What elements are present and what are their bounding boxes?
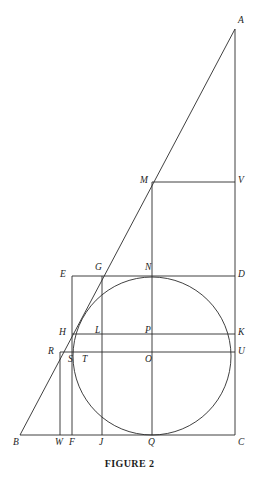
figure-caption: FIGURE 2 [0,458,259,469]
point-label-D: D [238,270,245,280]
point-label-M: M [140,176,148,186]
point-label-A: A [238,16,244,26]
point-label-U: U [238,347,245,357]
segment-BA-hypotenuse [20,29,235,435]
point-label-W: W [55,438,63,448]
point-label-Q: Q [148,438,155,448]
point-label-S: S [68,355,73,365]
figure-container: ABCDEFGHJKLMNOPQRSTUVW FIGURE 2 [0,0,259,493]
point-label-J: J [99,438,103,448]
point-label-K: K [238,328,244,338]
point-label-G: G [95,263,102,273]
segments-group [20,29,235,435]
point-label-C: C [238,438,244,448]
point-label-F: F [69,438,75,448]
point-label-E: E [60,270,66,280]
point-label-P: P [145,326,151,336]
point-label-T: T [82,355,87,365]
point-label-L: L [95,326,100,336]
point-label-B: B [13,438,19,448]
point-label-N: N [145,263,151,273]
geometry-diagram [0,0,259,493]
point-label-H: H [59,328,66,338]
point-label-O: O [145,355,152,365]
point-label-R: R [48,347,54,357]
point-label-V: V [238,176,244,186]
